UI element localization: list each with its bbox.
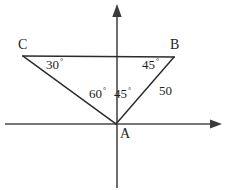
vertex-label-a: A [120, 127, 130, 141]
angle-label-bay-value: 45 [114, 86, 127, 101]
degree-icon: ° [156, 57, 159, 66]
vertex-label-b: B [170, 38, 179, 52]
y-axis-arrowhead [112, 4, 121, 17]
angle-label-b: 45° [142, 58, 159, 71]
angle-label-cab: 60° [89, 87, 106, 100]
angle-label-b-value: 45 [142, 57, 155, 72]
vertex-label-c: C [18, 38, 27, 52]
degree-icon: ° [103, 86, 106, 95]
side-length-label-ab: 50 [159, 84, 172, 97]
angle-label-c: 30° [46, 58, 63, 71]
angle-label-bay: 45° [114, 87, 131, 100]
degree-icon: ° [128, 86, 131, 95]
angle-label-cab-value: 60 [89, 86, 102, 101]
degree-icon: ° [60, 57, 63, 66]
x-axis-arrowhead [210, 120, 222, 129]
angle-label-c-value: 30 [46, 57, 59, 72]
geometry-figure: C B A 30° 45° 60° 45° 50 [0, 0, 230, 190]
